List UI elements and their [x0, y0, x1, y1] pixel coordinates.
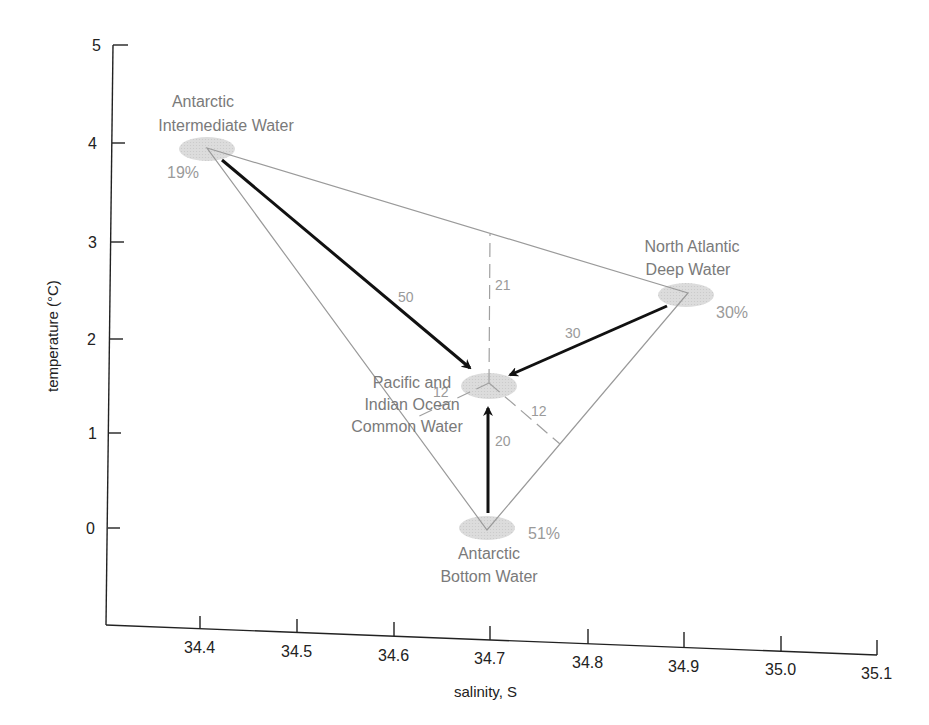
aiw-percent: 19% [167, 164, 199, 181]
y-tick-4: 4 [88, 135, 97, 152]
mix-label-1: Pacific and [373, 374, 451, 391]
dashed-to-top-edge [489, 234, 490, 383]
x-tick-35-1: 35.1 [861, 665, 892, 682]
x-axis-label: salinity, S [454, 683, 517, 700]
arrow-from-nadw [510, 306, 667, 375]
x-tick-34-8: 34.8 [572, 654, 603, 671]
x-tick-34-4: 34.4 [184, 639, 215, 656]
segment-label-21: 21 [495, 277, 511, 293]
y-axis-label: temperature (°C) [44, 280, 61, 392]
ts-diagram: 5 4 3 2 1 0 temperature (°C) 34.4 34.5 3… [0, 0, 929, 725]
aabw-blob [459, 516, 515, 540]
y-axis: 5 4 3 2 1 0 temperature (°C) [44, 37, 128, 625]
nadw-percent: 30% [716, 304, 748, 321]
x-axis: 34.4 34.5 34.6 34.7 34.8 34.9 35.0 35.1 … [106, 616, 892, 700]
x-tick-34-6: 34.6 [378, 647, 409, 664]
segment-label-30: 30 [565, 325, 581, 341]
x-tick-35-0: 35.0 [765, 661, 796, 678]
mix-label-2: Indian Ocean [364, 396, 459, 413]
segment-label-20: 20 [495, 433, 511, 449]
nadw-label-1: North Atlantic [644, 238, 739, 255]
x-tick-34-9: 34.9 [668, 658, 699, 675]
mixing-triangle [207, 148, 688, 530]
segment-label-50: 50 [398, 289, 414, 305]
nadw-label-2: Deep Water [646, 261, 731, 278]
aabw-percent: 51% [528, 525, 560, 542]
x-tick-34-7: 34.7 [474, 650, 505, 667]
aabw-label-2: Bottom Water [440, 568, 538, 585]
y-tick-0: 0 [86, 520, 95, 537]
aabw-label-1: Antarctic [458, 545, 520, 562]
y-tick-1: 1 [88, 425, 97, 442]
mix-label-3: Common Water [351, 418, 463, 435]
y-tick-2: 2 [87, 331, 96, 348]
y-tick-5: 5 [92, 37, 101, 54]
aiw-label-1: Antarctic [172, 93, 234, 110]
x-tick-34-5: 34.5 [281, 643, 312, 660]
y-tick-3: 3 [88, 234, 97, 251]
aiw-label-2: Intermediate Water [158, 117, 294, 134]
segment-label-12-right: 12 [531, 403, 547, 419]
